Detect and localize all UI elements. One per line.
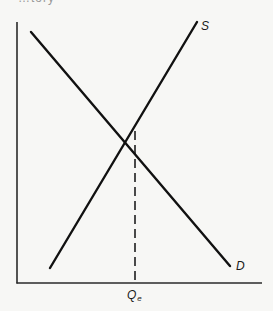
supply-curve: [50, 22, 197, 268]
demand-curve: [31, 32, 230, 266]
supply-demand-diagram: [0, 0, 273, 311]
demand-label: D: [236, 260, 245, 272]
supply-label: S: [201, 20, 209, 32]
equilibrium-quantity-label: Qe: [127, 289, 142, 303]
q-subscript: e: [137, 294, 141, 303]
q-letter: Q: [127, 288, 136, 302]
